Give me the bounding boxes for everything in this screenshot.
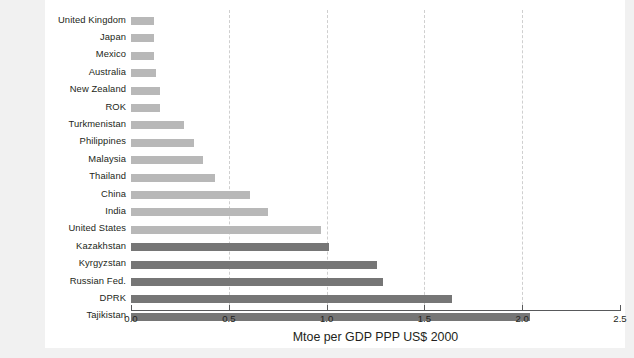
bar-category-label: Australia [89,66,126,77]
x-axis-tick-mark [620,305,621,311]
bar-category-label: Turkmenistan [68,118,126,129]
bar-row: Russian Fed. [45,274,625,291]
bar-row: Malaysia [45,152,625,169]
bar-category-label: Japan [100,31,126,42]
bar [131,52,154,60]
x-axis-tick-mark [229,305,230,311]
bar-row: United Kingdom [45,13,625,30]
x-axis-tick-label: 2.5 [613,313,626,324]
bar [131,104,160,112]
bar-category-label: Malaysia [88,153,126,164]
x-axis-line [131,310,620,311]
x-axis-tick-label: 2.0 [516,313,529,324]
bar-row: Japan [45,30,625,47]
page-root: United KingdomJapanMexicoAustraliaNew Ze… [0,0,634,358]
x-axis-tick-label: 1.5 [418,313,431,324]
bar [131,295,452,303]
bar-row: India [45,204,625,221]
bar-category-label: Philippines [80,135,126,146]
bar [131,87,160,95]
bar [131,34,154,42]
bar-row: Australia [45,65,625,82]
chart-panel: United KingdomJapanMexicoAustraliaNew Ze… [45,0,625,348]
bar-row: Philippines [45,134,625,151]
bar-category-label: Kyrgyzstan [79,257,126,268]
bar [131,261,377,269]
x-axis-tick-mark [522,305,523,311]
bar-row: Kazakhstan [45,239,625,256]
bar [131,278,383,286]
x-axis-tick-label: 1.0 [320,313,333,324]
bar-category-label: Russian Fed. [70,275,126,286]
x-axis-tick-mark [131,305,132,311]
bar-row: Thailand [45,169,625,186]
bar [131,156,203,164]
bar-category-label: ROK [105,101,126,112]
bar [131,174,215,182]
bar-row: Turkmenistan [45,117,625,134]
bar [131,69,156,77]
x-axis-tick-mark [424,305,425,311]
bar-category-label: DPRK [100,292,126,303]
bar [131,243,329,251]
x-axis-title: Mtoe per GDP PPP US$ 2000 [131,330,620,344]
bar [131,208,268,216]
bar-row: United States [45,221,625,238]
bar-row: China [45,187,625,204]
bar-category-label: United States [68,222,126,233]
bar-row: ROK [45,100,625,117]
bar-category-label: United Kingdom [58,14,126,25]
bar [131,121,184,129]
bar-category-label: New Zealand [70,83,126,94]
bar-category-label: Thailand [89,170,126,181]
bar-row: New Zealand [45,82,625,99]
bar-category-label: India [105,205,126,216]
bar-row: Mexico [45,47,625,64]
bar-row: DPRK [45,291,625,308]
x-axis-tick-label: 0.0 [124,313,137,324]
bar [131,17,154,25]
bar-category-label: Kazakhstan [76,240,126,251]
bar-category-label: China [101,188,126,199]
bar-chart-plot-area: United KingdomJapanMexicoAustraliaNew Ze… [45,0,625,348]
bar-row: Kyrgyzstan [45,256,625,273]
bar-category-label: Tajikistan [87,309,127,320]
x-axis-tick-label: 0.5 [222,313,235,324]
bar [131,191,250,199]
bar [131,226,321,234]
x-axis-tick-mark [327,305,328,311]
bar [131,139,194,147]
bar-category-label: Mexico [96,48,126,59]
